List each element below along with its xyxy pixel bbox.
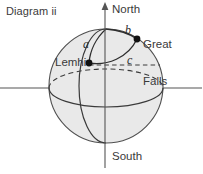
point-label-great-falls: Great Falls	[143, 13, 172, 112]
north-arrow-icon	[102, 2, 109, 10]
diagram-figure: Diagram ii North South Lemhi Great Falls…	[0, 0, 203, 174]
diagram-title: Diagram ii	[6, 6, 57, 18]
point-label-great-falls-line2: Falls	[143, 75, 172, 87]
arc-label-a: a	[83, 38, 89, 51]
south-axis-label: South	[112, 150, 142, 162]
point-label-lemhi: Lemhi	[55, 56, 86, 68]
north-axis-label: North	[112, 3, 140, 15]
arc-label-c: c	[127, 54, 132, 67]
arc-label-b: b	[125, 24, 131, 37]
point-marker-lemhi	[86, 60, 93, 67]
point-marker-great-falls	[134, 36, 141, 43]
point-label-great-falls-line1: Great	[143, 38, 172, 50]
sphere-diagram-canvas	[0, 0, 203, 174]
